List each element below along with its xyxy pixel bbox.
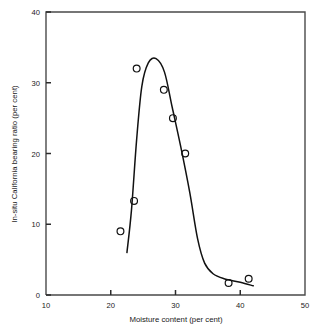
fitted-curve [127,58,253,286]
data-point-7 [245,275,252,282]
x-tick-label-10: 10 [42,301,50,310]
y-axis-title: In-situ California bearing ratio (per ce… [10,85,19,223]
x-tick-label-40: 40 [236,301,244,310]
y-tick-label-0: 0 [36,291,40,300]
x-tick-label-20: 20 [107,301,115,310]
x-tick-label-50: 50 [301,301,309,310]
curve-path [127,58,253,286]
data-point-3 [160,86,167,93]
axis-ticks [46,12,240,295]
x-axis-title: Moisture content (per cent) [129,315,223,324]
moisture-vs-cbr-scatter-chart: 1020304050 010203040 Moisture content (p… [0,0,324,328]
y-tick-label-30: 30 [32,79,40,88]
chart-figure: 1020304050 010203040 Moisture content (p… [0,0,324,328]
x-tick-label-30: 30 [171,301,179,310]
data-points [117,65,252,286]
y-tick-label-10: 10 [32,220,40,229]
plot-frame [46,12,305,295]
data-point-0 [117,228,124,235]
y-tick-label-20: 20 [32,150,40,159]
y-axis-tick-labels: 010203040 [32,8,40,300]
data-point-2 [133,65,140,72]
axes [46,12,305,295]
y-tick-label-40: 40 [32,8,40,17]
x-axis-tick-labels: 1020304050 [42,301,309,310]
